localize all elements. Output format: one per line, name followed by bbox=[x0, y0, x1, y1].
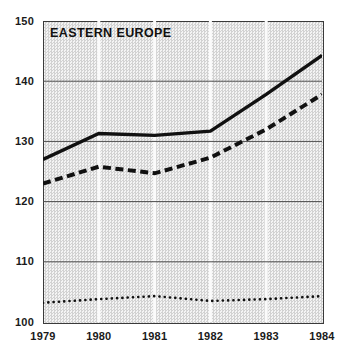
x-axis-tick-label: 1981 bbox=[130, 331, 180, 342]
y-axis-tick-label: 150 bbox=[0, 16, 34, 27]
chart-title: EASTERN EUROPE bbox=[50, 26, 172, 40]
y-axis-tick-label: 120 bbox=[0, 196, 34, 207]
x-axis-tick-label: 1982 bbox=[185, 331, 235, 342]
x-axis-tick-label: 1984 bbox=[297, 331, 342, 342]
series-dotted-line bbox=[43, 296, 322, 303]
x-axis-tick-label: 1983 bbox=[241, 331, 291, 342]
x-axis-tick-label: 1979 bbox=[18, 331, 68, 342]
plot-series-layer bbox=[43, 21, 322, 322]
y-axis-tick-label: 100 bbox=[0, 317, 34, 328]
y-axis-tick-label: 110 bbox=[0, 256, 34, 267]
y-axis-tick-label: 140 bbox=[0, 76, 34, 87]
series-solid-line bbox=[43, 55, 322, 159]
chart-container: 150140130120110100 197919801981198219831… bbox=[0, 0, 342, 360]
y-axis-tick-label: 130 bbox=[0, 136, 34, 147]
x-axis-tick-label: 1980 bbox=[74, 331, 124, 342]
